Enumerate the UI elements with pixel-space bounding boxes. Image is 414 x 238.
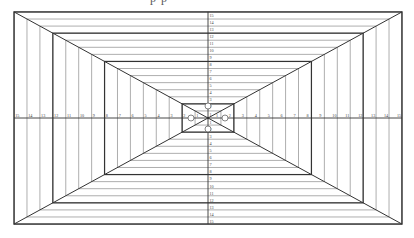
- bottom-axis-label: 14: [210, 212, 215, 217]
- left-axis-label: 5: [145, 113, 147, 118]
- right-axis-label: 1: [216, 113, 218, 118]
- right-axis-label: 11: [345, 113, 349, 118]
- left-axis-label: 14: [28, 113, 33, 118]
- left-axis-label: 4: [157, 113, 160, 118]
- top-axis-label: 13: [210, 27, 214, 32]
- left-axis-label: 6: [132, 113, 134, 118]
- bottom-axis-label: 7: [210, 162, 212, 167]
- left-axis-label: 9: [93, 113, 95, 118]
- diagram-canvas: p p 151413121110987654321123456789101112…: [0, 0, 414, 238]
- left-axis-label: 3: [170, 113, 172, 118]
- bottom-axis-label: 6: [210, 155, 212, 160]
- top-axis-label: 12: [210, 34, 214, 39]
- top-axis-label: 1: [210, 112, 212, 117]
- top-marker-circle-icon: [205, 103, 211, 109]
- top-axis-label: 5: [210, 83, 212, 88]
- top-axis-label: 10: [210, 48, 214, 53]
- right-axis-label: 8: [306, 113, 308, 118]
- center-markers: [188, 103, 228, 132]
- perspective-grid: 1514131211109876543211234567891011121314…: [0, 0, 414, 238]
- bottom-axis-label: 12: [210, 198, 214, 203]
- bottom-axis-label: 15: [210, 219, 214, 224]
- left-axis-label: 10: [80, 113, 84, 118]
- bottom-axis-label: 9: [210, 176, 212, 181]
- bottom-axis-label: 10: [210, 184, 214, 189]
- left-axis-label: 1: [196, 113, 198, 118]
- right-axis-label: 2: [229, 113, 231, 118]
- bottom-axis-label: 1: [210, 120, 212, 125]
- left-axis-label: 15: [15, 113, 19, 118]
- bottom-axis-label: 8: [210, 169, 212, 174]
- left-marker-circle-icon: [188, 115, 194, 121]
- right-axis-label: 10: [332, 113, 336, 118]
- top-axis-label: 11: [210, 41, 214, 46]
- right-axis-label: 6: [281, 113, 283, 118]
- top-axis-label: 8: [210, 62, 212, 67]
- left-axis-label: 11: [67, 113, 71, 118]
- top-axis-label: 14: [210, 20, 215, 25]
- top-axis-label: 9: [210, 55, 212, 60]
- right-axis-label: 3: [242, 113, 244, 118]
- left-axis-label: 2: [183, 113, 185, 118]
- left-axis-label: 13: [41, 113, 45, 118]
- bottom-axis-label: 11: [210, 191, 214, 196]
- top-axis-label: 6: [210, 76, 212, 81]
- right-axis-label: 15: [397, 113, 401, 118]
- left-axis-label: 7: [119, 113, 121, 118]
- top-axis-label: 15: [210, 13, 214, 18]
- right-axis-label: 9: [319, 113, 321, 118]
- bottom-marker-circle-icon: [205, 126, 211, 132]
- right-axis-label: 13: [371, 113, 375, 118]
- right-axis-label: 7: [294, 113, 296, 118]
- right-axis-label: 14: [384, 113, 389, 118]
- top-axis-label: 3: [210, 97, 212, 102]
- bottom-axis-label: 3: [210, 134, 212, 139]
- top-axis-label: 7: [210, 69, 212, 74]
- right-axis-label: 5: [268, 113, 270, 118]
- bottom-axis-label: 5: [210, 148, 212, 153]
- bottom-axis-label: 4: [210, 141, 213, 146]
- right-marker-circle-icon: [222, 115, 228, 121]
- center-point-icon: [207, 117, 209, 119]
- right-axis-label: 12: [358, 113, 362, 118]
- right-axis-label: 4: [255, 113, 258, 118]
- clipped-caption: p p: [150, 0, 168, 6]
- left-axis-label: 8: [106, 113, 108, 118]
- top-axis-label: 4: [210, 90, 213, 95]
- left-axis-label: 12: [54, 113, 58, 118]
- bottom-axis-label: 13: [210, 205, 214, 210]
